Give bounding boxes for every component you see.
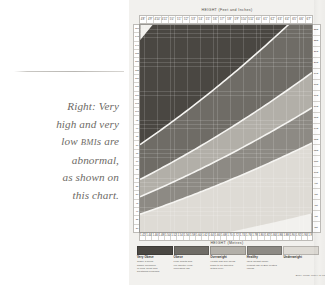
axis-tick-label: 8st	[312, 189, 320, 200]
legend-item-name: Very Obese	[137, 256, 171, 259]
legend-item: OverweightHealth and well-beingbegin to …	[210, 246, 244, 270]
axis-tick-label: 21st	[312, 47, 320, 58]
axis-tick-label: 4'10"	[154, 16, 161, 23]
caption-line: as shown on	[13, 169, 119, 187]
axis-tick-label: 6'4"	[284, 16, 291, 23]
axis-tick-label: 4'9"	[147, 16, 154, 23]
legend-item-description: Lose health andlive shorter lives.Increa…	[174, 260, 208, 270]
caption-smallcaps-bmi: BMI	[81, 137, 97, 147]
legend-color-swatch	[174, 246, 210, 255]
axis-tick-label: 5'5"	[205, 16, 212, 23]
axis-tick-label: 14st	[312, 124, 320, 135]
axis-tick-label: 15st	[312, 113, 320, 124]
axis-tick-label: 10st	[312, 167, 320, 178]
legend-item: ObeseLose health andlive shorter lives.I…	[174, 246, 208, 270]
axis-tick-label: 23st	[312, 25, 320, 36]
top-axis-ticks: 4'8"4'9"4'10"4'11"5'0"5'1"5'2"5'3"5'4"5'…	[139, 15, 313, 24]
legend-item-description: Suffer a muchhigher incidenceof lung, he…	[137, 260, 171, 273]
left-text-column: Right: Very high and very low BMIs are a…	[0, 0, 130, 285]
bmi-band-diagram	[140, 25, 312, 232]
axis-tick-label: 18st	[312, 80, 320, 91]
axis-tick-label: 6'5"	[291, 16, 298, 23]
legend-item-description: Health and well-beingbegin to be affecte…	[210, 260, 244, 270]
axis-tick-label: 4'8"	[140, 16, 147, 23]
caption-line: this chart.	[13, 187, 119, 205]
axis-tick-label: 6'2"	[270, 16, 277, 23]
legend-item: Very ObeseSuffer a muchhigher incidenceo…	[137, 246, 171, 270]
legend-item: Underweight	[283, 246, 317, 270]
legend-color-swatch	[247, 246, 283, 255]
axis-tick-label: 5'6"	[212, 16, 219, 23]
chart-legend: Very ObeseSuffer a muchhigher incidenceo…	[137, 246, 317, 270]
axis-tick-label: 6'0"	[255, 16, 262, 23]
bmi-chart-panel: HEIGHT (Feet and Inches) HEIGHT (Metres)…	[129, 0, 325, 285]
horizontal-rule-divider	[14, 71, 124, 72]
axis-tick-label: 6st	[312, 211, 320, 222]
axis-tick-label: 5'2"	[183, 16, 190, 23]
axis-tick-label: 5'11"	[248, 16, 255, 23]
caption-line: abnormal,	[13, 152, 119, 170]
legend-color-swatch	[210, 246, 246, 255]
axis-tick-label: 7st	[312, 200, 320, 211]
caption-line: high and very	[13, 116, 119, 134]
axis-tick-label: 5'4"	[198, 16, 205, 23]
legend-color-swatch	[137, 246, 173, 255]
axis-tick-label: 5'3"	[190, 16, 197, 23]
axis-tick-label: 9st	[312, 178, 320, 189]
caption-line: low BMIs are	[13, 133, 119, 152]
legend-item-name: Overweight	[210, 256, 244, 259]
legend-item-name: Healthy	[247, 256, 281, 259]
bmi-plot-area	[139, 24, 313, 233]
scanned-book-page: Right: Very high and very low BMIs are a…	[0, 0, 325, 285]
bottom-axis-title: HEIGHT (Metres)	[129, 241, 325, 245]
axis-tick-label: 6'6"	[298, 16, 305, 23]
axis-tick-label: 5'9"	[234, 16, 241, 23]
axis-tick-label: 1.96	[308, 233, 313, 240]
axis-tick-label: 16st	[312, 102, 320, 113]
axis-tick-label: 5'8"	[226, 16, 233, 23]
axis-tick-label: 5st	[312, 222, 320, 232]
axis-tick-label: 12st	[312, 145, 320, 156]
axis-tick-label: 11st	[312, 156, 320, 167]
top-axis-title: HEIGHT (Feet and Inches)	[129, 8, 325, 12]
axis-tick-label: 5'0"	[169, 16, 176, 23]
caption-line: Right: Very	[13, 98, 119, 116]
chart-footnote: Body Mass Index is calculated as weight …	[279, 274, 325, 277]
legend-item-description: Ideal weight range.Lowest risk of BMI-re…	[247, 260, 281, 270]
legend-item-name: Underweight	[283, 256, 317, 259]
axis-tick-label: 13st	[312, 135, 320, 146]
axis-tick-label: 5'7"	[219, 16, 226, 23]
legend-item: HealthyIdeal weight range.Lowest risk of…	[247, 246, 281, 270]
axis-tick-label: 5'10"	[241, 16, 248, 23]
axis-tick-label: 6'1"	[262, 16, 269, 23]
figure-caption: Right: Very high and very low BMIs are a…	[13, 98, 119, 205]
axis-tick-label: 20st	[312, 58, 320, 69]
axis-tick-label: 4'11"	[162, 16, 169, 23]
axis-tick-label: 19st	[312, 69, 320, 80]
axis-tick-label: 5'1"	[176, 16, 183, 23]
legend-color-swatch	[283, 246, 319, 255]
axis-tick-label: 17st	[312, 91, 320, 102]
bottom-axis-ticks: 1.421.441.461.481.501.521.541.561.581.60…	[139, 232, 313, 241]
axis-tick-label: 6'3"	[277, 16, 284, 23]
axis-tick-label: 22st	[312, 36, 320, 47]
axis-tick-label: 6'7"	[306, 16, 312, 23]
legend-item-name: Obese	[174, 256, 208, 259]
